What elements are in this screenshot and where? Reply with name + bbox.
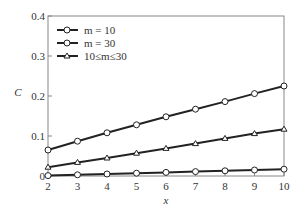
- circle-marker: [45, 147, 51, 153]
- x-tick-label: 7: [193, 180, 199, 192]
- x-tick-label: 8: [222, 180, 228, 192]
- circle-marker: [104, 130, 110, 136]
- circle-marker: [64, 27, 70, 33]
- x-tick-label: 9: [252, 180, 258, 192]
- circle-marker: [75, 138, 81, 144]
- legend-label: m = 30: [84, 37, 116, 49]
- circle-marker: [163, 114, 169, 120]
- y-axis-label: C: [14, 86, 22, 98]
- x-tick-label: 4: [104, 180, 110, 192]
- circle-marker: [252, 167, 258, 173]
- x-tick-label: 10: [279, 180, 291, 192]
- circle-marker: [104, 171, 110, 177]
- circle-marker: [193, 169, 199, 175]
- circle-marker: [134, 170, 140, 176]
- x-tick-label: 6: [163, 180, 169, 192]
- x-tick-label: 2: [45, 180, 51, 192]
- circle-marker: [64, 40, 70, 46]
- y-tick-label: 0.1: [31, 130, 45, 142]
- legend-label: 10≤m≤30: [84, 50, 127, 62]
- circle-marker: [222, 168, 228, 174]
- legend-label: m = 10: [84, 24, 116, 36]
- y-tick-label: 0.4: [31, 10, 45, 22]
- x-tick-label: 5: [134, 180, 140, 192]
- circle-marker: [252, 91, 258, 97]
- circle-marker: [45, 173, 51, 179]
- circle-marker: [193, 106, 199, 112]
- y-tick-label: 0.2: [31, 90, 45, 102]
- circle-marker: [75, 172, 81, 178]
- x-axis-label: x: [163, 194, 169, 206]
- circle-marker: [281, 166, 287, 172]
- line-chart: 00.10.20.30.42345678910xCm = 10m = 3010≤…: [0, 0, 296, 219]
- circle-marker: [222, 99, 228, 105]
- circle-marker: [134, 122, 140, 128]
- circle-marker: [163, 169, 169, 175]
- x-tick-label: 3: [75, 180, 81, 192]
- y-tick-label: 0.3: [31, 50, 45, 62]
- circle-marker: [281, 83, 287, 89]
